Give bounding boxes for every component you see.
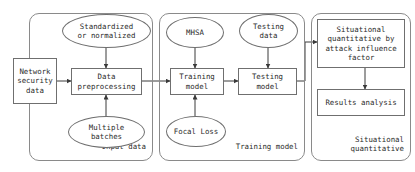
node-data-preprocessing[interactable]: Data preprocessing: [71, 68, 142, 95]
node-mhsa[interactable]: MHSA: [166, 17, 224, 48]
group-situational-quantitative-label: Situational quantitative: [318, 136, 404, 154]
node-focal-loss[interactable]: Focal Loss: [166, 116, 226, 147]
group-training-model-label: Training model: [198, 143, 298, 152]
node-situational-quantitative-by-attack-influence-factor[interactable]: Situational quantitative by attack influ…: [317, 19, 405, 68]
node-network-security-data[interactable]: Network security data: [13, 58, 57, 104]
node-training-model[interactable]: Training model: [170, 68, 224, 95]
node-standardized-or-normalized[interactable]: Standardized or normalized: [62, 14, 151, 48]
node-testing-data[interactable]: Testing data: [239, 14, 298, 48]
flowchart-diagram: Input data Training model Situational qu…: [0, 0, 415, 172]
node-results-analysis[interactable]: Results analysis: [317, 89, 405, 116]
node-testing-model[interactable]: Testing model: [238, 68, 297, 95]
node-multiple-batches[interactable]: Multiple batches: [68, 116, 145, 148]
